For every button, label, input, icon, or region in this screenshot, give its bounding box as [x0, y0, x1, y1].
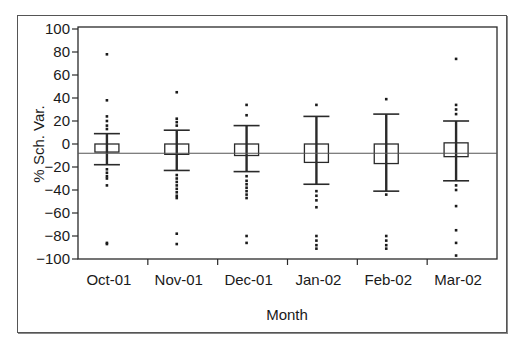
boxes [78, 53, 497, 257]
outlier-point [106, 128, 109, 131]
outlier-point [175, 194, 178, 197]
outlier-point [385, 239, 388, 242]
y-tick-label: −100 [36, 250, 70, 267]
outlier-point [106, 53, 109, 56]
outlier-point [106, 99, 109, 102]
y-tick-label: 40 [53, 89, 70, 106]
outlier-point [175, 177, 178, 180]
x-tick-label: Mar-02 [434, 271, 482, 288]
outlier-point [385, 244, 388, 247]
plot-border [78, 27, 497, 259]
outlier-point [175, 188, 178, 191]
x-axis-title: Month [266, 306, 308, 323]
outlier-point [455, 108, 458, 111]
y-axis-title: % Sch. Var. [30, 105, 47, 182]
outlier-point [315, 194, 318, 197]
x-tick-label: Dec-01 [224, 271, 272, 288]
x-tick-label: Jan-02 [295, 271, 341, 288]
box-oct-01 [94, 53, 120, 245]
outlier-point [455, 184, 458, 187]
outlier-point [175, 121, 178, 124]
outlier-point [455, 113, 458, 116]
outlier-point [175, 243, 178, 246]
x-axis: Oct-01Nov-01Dec-01Jan-02Feb-02Mar-02 [86, 259, 481, 288]
outlier-point [245, 235, 248, 238]
outlier-point [315, 190, 318, 193]
outlier-point [245, 180, 248, 183]
box-nov-01 [164, 91, 190, 245]
outlier-point [175, 174, 178, 177]
outlier-point [315, 235, 318, 238]
outlier-point [175, 197, 178, 200]
outlier-point [175, 91, 178, 94]
y-tick-label: 80 [53, 43, 70, 60]
y-tick-label: 0 [62, 135, 70, 152]
outlier-point [315, 199, 318, 202]
outlier-point [455, 58, 458, 61]
outlier-point [175, 184, 178, 187]
outlier-point [245, 197, 248, 200]
outlier-point [385, 193, 388, 196]
outlier-point [245, 242, 248, 245]
outlier-point [315, 244, 318, 247]
outlier-point [106, 120, 109, 123]
y-tick-label: −40 [45, 181, 70, 198]
box-plot-chart: 100806040200−20−40−60−80−100 Oct-01Nov-0… [0, 0, 517, 346]
outlier-point [245, 193, 248, 196]
outlier-point [385, 98, 388, 101]
y-tick-label: −60 [45, 204, 70, 221]
outlier-point [245, 104, 248, 107]
outlier-point [455, 254, 458, 257]
outlier-point [175, 181, 178, 184]
box-mar-02 [443, 58, 469, 257]
x-tick-label: Nov-01 [155, 271, 203, 288]
outlier-point [175, 124, 178, 127]
outlier-point [106, 177, 109, 180]
outlier-point [106, 175, 109, 178]
outlier-point [245, 175, 248, 178]
outlier-point [106, 184, 109, 187]
outlier-point [175, 191, 178, 194]
outlier-point [315, 239, 318, 242]
outlier-point [455, 104, 458, 107]
x-tick-label: Oct-01 [86, 271, 131, 288]
outlier-point [106, 124, 109, 127]
box-jan-02 [303, 104, 329, 250]
x-tick-label: Feb-02 [364, 271, 412, 288]
outlier-point [175, 232, 178, 235]
plot-area [78, 27, 497, 259]
outlier-point [245, 183, 248, 186]
outlier-point [245, 114, 248, 117]
y-tick-label: −80 [45, 227, 70, 244]
box-feb-02 [373, 98, 399, 250]
outlier-point [315, 247, 318, 250]
outlier-point [106, 243, 109, 246]
outlier-point [385, 235, 388, 238]
box-dec-01 [234, 104, 260, 245]
outlier-point [106, 115, 109, 118]
outlier-point [385, 247, 388, 250]
outlier-point [315, 206, 318, 209]
outlier-point [106, 171, 109, 174]
outlier-point [455, 242, 458, 245]
y-tick-label: −20 [45, 158, 70, 175]
outlier-point [455, 229, 458, 232]
outlier-point [245, 186, 248, 189]
y-tick-label: 100 [45, 20, 70, 37]
outlier-point [455, 189, 458, 192]
outlier-point [315, 104, 318, 107]
outlier-point [245, 190, 248, 193]
y-tick-label: 20 [53, 112, 70, 129]
outlier-point [106, 168, 109, 171]
outlier-point [175, 117, 178, 120]
y-tick-label: 60 [53, 66, 70, 83]
outlier-point [455, 205, 458, 208]
